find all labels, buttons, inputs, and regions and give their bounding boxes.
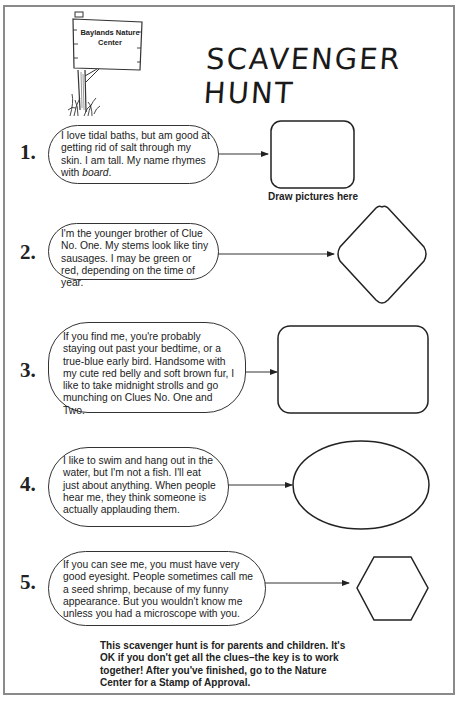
clue-2-bubble: I'm the younger brother of Clue No. One.… [48,223,219,280]
clue-4-bubble: I like to swim and hang out in the water… [48,447,229,527]
clue-3-text: If you find me, you're probably staying … [63,331,235,417]
clue-3-number: 3. [20,358,36,383]
clue-2-text: I'm the younger brother of Clue No. One.… [61,228,210,289]
clue-1-number: 1. [20,140,36,165]
clue-1-bubble: I love tidal baths, but am good at getti… [48,125,219,184]
clue-2-number: 2. [20,240,36,265]
draw-area-3-rounded-rectangle[interactable] [278,326,428,413]
footer-note: This scavenger hunt is for parents and c… [100,640,350,689]
draw-area-5-hexagon[interactable] [357,557,428,620]
clue-5-bubble: If you can see me, you must have very go… [48,551,266,626]
clue-5-number: 5. [20,570,36,595]
clue-5-text: If you can see me, you must have very go… [63,559,257,620]
clue-1-text: I love tidal baths, but am good at getti… [61,130,210,179]
draw-area-4-ellipse[interactable] [293,441,429,529]
clue-3-bubble: If you find me, you're probably staying … [48,322,246,413]
clue-4-number: 4. [20,472,36,497]
draw-area-1-rounded-square[interactable] [271,121,354,188]
draw-pictures-label: Draw pictures here [268,191,358,202]
draw-area-2-diamond[interactable] [338,206,426,303]
clue-4-text: I like to swim and hang out in the water… [63,455,218,516]
